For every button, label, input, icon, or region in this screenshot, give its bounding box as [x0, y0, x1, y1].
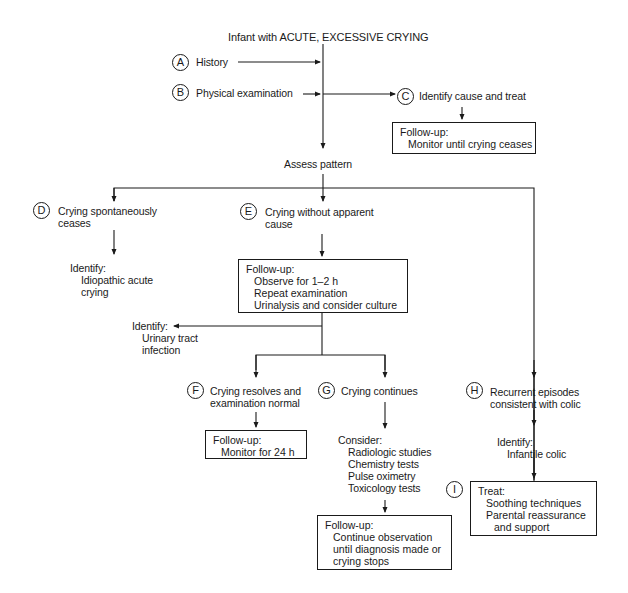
step-marker-a: A	[172, 54, 189, 71]
step-d-label-line1: Crying spontaneously	[58, 205, 157, 217]
identify-d-heading: Identify:	[70, 262, 106, 274]
identify-e-heading: Identify:	[132, 320, 168, 332]
followup-heading: Follow-up:	[213, 434, 306, 446]
step-d-label-line2: ceases	[58, 217, 91, 229]
treat-box-i: Treat: Soothing techniques Parental reas…	[470, 481, 597, 536]
treat-heading: Treat:	[478, 485, 596, 497]
step-marker-d: D	[33, 202, 50, 219]
consider-item: Pulse oximetry	[348, 470, 415, 482]
followup-item: Urinalysis and consider culture	[246, 299, 407, 311]
consider-heading: Consider:	[338, 434, 382, 446]
step-marker-g: G	[318, 382, 335, 399]
followup-item: Monitor until crying ceases	[400, 138, 535, 150]
step-f-label-line1: Crying resolves and	[210, 385, 301, 397]
followup-box-c: Follow-up: Monitor until crying ceases	[392, 122, 536, 154]
step-e-label-line1: Crying without apparent	[265, 206, 374, 218]
step-g-label: Crying continues	[341, 385, 418, 397]
treat-item: Soothing techniques	[478, 497, 596, 509]
step-b-label: Physical examination	[196, 87, 293, 99]
treat-item: Parental reassurance	[478, 509, 596, 521]
treat-item-continuation: and support	[478, 521, 596, 533]
followup-box-f: Follow-up: Monitor for 24 h	[205, 430, 307, 459]
step-marker-e: E	[240, 203, 257, 220]
step-c-label: Identify cause and treat	[419, 90, 526, 102]
followup-heading: Follow-up:	[246, 263, 407, 275]
followup-item: Monitor for 24 h	[213, 446, 306, 458]
followup-item: Continue observation	[325, 531, 451, 543]
followup-heading: Follow-up:	[325, 519, 451, 531]
step-marker-c: C	[397, 88, 414, 105]
consider-item: Chemistry tests	[348, 458, 419, 470]
step-f-label-line2: examination normal	[210, 397, 300, 409]
followup-item: until diagnosis made or	[325, 543, 451, 555]
identify-h-item: Infantile colic	[507, 448, 566, 460]
consider-item: Toxicology tests	[348, 482, 421, 494]
assess-pattern-label: Assess pattern	[284, 158, 352, 170]
followup-box-g: Follow-up: Continue observation until di…	[317, 515, 452, 570]
identify-d-item2: crying	[81, 286, 108, 298]
identify-d-item1: Idiopathic acute	[81, 274, 153, 286]
followup-item: Repeat examination	[246, 287, 407, 299]
followup-box-e: Follow-up: Observe for 1–2 h Repeat exam…	[238, 259, 408, 313]
step-h-label-line2: consistent with colic	[490, 398, 581, 410]
step-marker-h: H	[466, 382, 483, 399]
step-marker-f: F	[187, 382, 204, 399]
identify-h-heading: Identify:	[497, 436, 533, 448]
identify-e-item2: infection	[142, 344, 180, 356]
followup-heading: Follow-up:	[400, 126, 535, 138]
consider-item: Radiologic studies	[348, 446, 431, 458]
step-marker-i: I	[446, 481, 463, 498]
step-e-label-line2: cause	[265, 218, 293, 230]
step-marker-b: B	[172, 84, 189, 101]
followup-item: Observe for 1–2 h	[246, 275, 407, 287]
step-h-label-line1: Recurrent episodes	[490, 386, 579, 398]
identify-e-item1: Urinary tract	[142, 332, 198, 344]
step-a-label: History	[196, 56, 228, 68]
followup-item: crying stops	[325, 555, 451, 567]
flowchart-title: Infant with ACUTE, EXCESSIVE CRYING	[228, 31, 428, 43]
